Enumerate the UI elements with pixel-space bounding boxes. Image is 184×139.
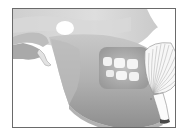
chin-implant — [145, 43, 176, 94]
illustration-frame — [12, 8, 176, 128]
teeth — [99, 47, 149, 89]
jaw-illustration — [13, 9, 176, 128]
mandibular-notch — [56, 21, 74, 35]
